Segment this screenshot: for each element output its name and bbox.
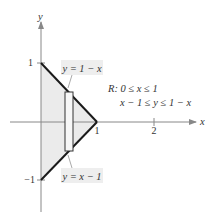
upper-label-leader bbox=[68, 75, 72, 88]
x-tick-label-1: 1 bbox=[95, 125, 100, 136]
representative-rectangle bbox=[65, 92, 73, 151]
x-axis-label: x bbox=[199, 116, 205, 127]
lower-label-leader bbox=[68, 155, 72, 168]
lower-curve-label: y = x − 1 bbox=[61, 171, 101, 182]
upper-curve-label: y = 1 − x bbox=[61, 63, 102, 74]
region-desc-line1: R: 0 ≤ x ≤ 1 bbox=[107, 83, 158, 94]
y-tick-label-1: 1 bbox=[28, 57, 33, 68]
x-tick-label-2: 2 bbox=[152, 125, 157, 136]
y-tick-label-neg1: −1 bbox=[24, 174, 35, 185]
region-desc-line2: x − 1 ≤ y ≤ 1 − x bbox=[119, 97, 192, 108]
diagram-figure: y = 1 − x y = x − 1 R: 0 ≤ x ≤ 1 x − 1 ≤… bbox=[0, 0, 208, 219]
y-axis-label: y bbox=[37, 11, 43, 22]
